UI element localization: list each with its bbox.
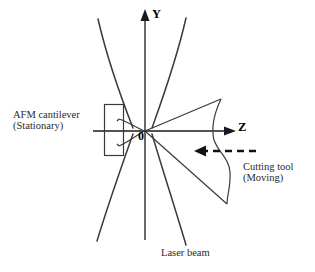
- y-axis-arrowhead: [141, 9, 150, 21]
- figure-root: AFM cantilever (Stationary) Cutting tool…: [0, 0, 315, 272]
- axes-group: [93, 19, 229, 240]
- laser-beam-label: Laser beam: [161, 247, 210, 258]
- cantilever-tip-back-lower: [117, 144, 119, 146]
- afm-cantilever-body: [105, 105, 124, 156]
- laser-beam-curve-upper-right: [152, 18, 186, 128]
- z-axis-arrowhead: [224, 127, 236, 136]
- laser-beam-curve-upper-left: [98, 19, 133, 128]
- origin-label: 0: [138, 130, 144, 143]
- diagram-canvas: [0, 0, 315, 272]
- laser-beam-curve-lower-right: [152, 134, 186, 245]
- cutting-tool-label: Cutting tool (Moving): [243, 161, 293, 184]
- motion-arrow-group: [194, 146, 256, 157]
- laser-beam-curve-lower-left: [97, 134, 133, 241]
- y-axis-label: Y: [152, 8, 161, 22]
- z-axis-label: Z: [238, 121, 246, 135]
- cantilever-tip-back-upper: [117, 119, 119, 121]
- motion-arrow-head: [194, 146, 206, 157]
- afm-cantilever-label: AFM cantilever (Stationary): [13, 109, 80, 132]
